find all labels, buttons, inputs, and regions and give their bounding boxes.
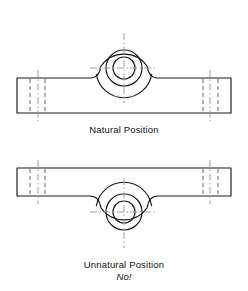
caption-unnatural-position: Unnatural Position (0, 259, 248, 270)
caption-natural-position: Natural Position (0, 124, 248, 135)
figure-natural-position (17, 33, 231, 121)
caption-no-annotation: No! (0, 271, 248, 282)
technical-drawing-canvas (0, 0, 248, 291)
figure-unnatural-position (17, 160, 231, 248)
drawing-page: Natural Position Unnatural Position No! (0, 0, 248, 291)
